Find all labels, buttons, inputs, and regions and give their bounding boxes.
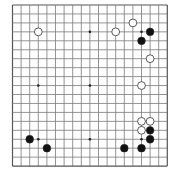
white-stone[interactable]: [138, 117, 146, 125]
star-point: [89, 31, 92, 34]
white-stone[interactable]: [129, 19, 137, 27]
board-grid[interactable]: [0, 0, 177, 175]
black-stone[interactable]: [146, 126, 154, 134]
star-point: [37, 84, 40, 87]
white-stone[interactable]: [146, 117, 154, 125]
white-stone[interactable]: [138, 82, 146, 90]
white-stone[interactable]: [138, 126, 146, 134]
white-stone[interactable]: [112, 28, 120, 36]
black-stone[interactable]: [146, 135, 154, 143]
star-point: [140, 138, 143, 141]
star-point: [37, 138, 40, 141]
black-stone[interactable]: [120, 144, 128, 152]
star-point: [140, 31, 143, 34]
go-board[interactable]: [0, 0, 177, 175]
white-stone[interactable]: [34, 28, 42, 36]
black-stone[interactable]: [146, 28, 154, 36]
white-stone[interactable]: [146, 55, 154, 63]
black-stone[interactable]: [138, 144, 146, 152]
black-stone[interactable]: [26, 135, 34, 143]
star-point: [89, 84, 92, 87]
black-stone[interactable]: [43, 144, 51, 152]
black-stone[interactable]: [138, 37, 146, 45]
star-point: [89, 138, 92, 141]
